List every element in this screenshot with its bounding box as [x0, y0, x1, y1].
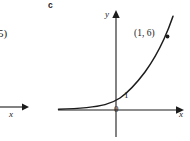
- origin-label: 0: [114, 105, 119, 114]
- figure-canvas: 5) x c y x 0 1 (1, 6): [0, 0, 190, 141]
- y-axis-arrowhead-icon: [112, 10, 119, 18]
- point-marker-1-6: [166, 35, 170, 39]
- figure-vector-layer: [0, 0, 190, 141]
- x-axis: [58, 106, 184, 113]
- y-axis: [112, 10, 119, 137]
- point-coordinate-label: (1, 6): [134, 29, 155, 39]
- x-axis-label: x: [179, 110, 183, 119]
- part-letter-label: c: [48, 1, 53, 10]
- y-intercept-label: 1: [124, 91, 129, 100]
- y-axis-label: y: [105, 10, 109, 19]
- neighbor-fragment-arrowhead-icon: [22, 103, 29, 110]
- neighbor-fragment-problem-number: 5): [0, 28, 7, 39]
- neighbor-fragment-x-axis-label: x: [9, 110, 13, 119]
- neighbor-fragment-axis: [0, 103, 29, 110]
